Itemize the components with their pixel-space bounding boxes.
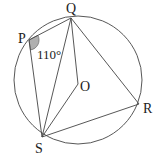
label-s: S [35, 141, 43, 156]
segment-qo [71, 18, 78, 84]
label-r: R [143, 101, 153, 116]
label-p: P [18, 31, 26, 46]
segment-os [42, 84, 78, 137]
label-q: Q [66, 1, 76, 16]
label-o: O [80, 79, 90, 94]
label-angle-p: 110° [37, 47, 61, 62]
segment-rs [42, 104, 139, 137]
segment-pq [29, 18, 71, 40]
circle-geometry-diagram: Q P 110° O R S [0, 0, 157, 160]
segment-qs [42, 18, 71, 137]
